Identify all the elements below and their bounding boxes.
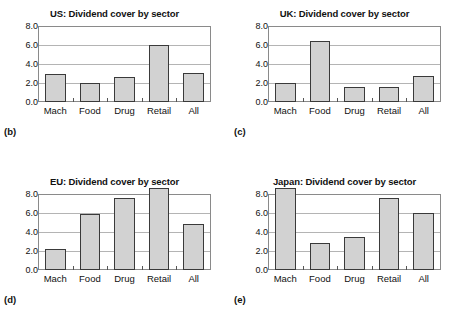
bar-retail <box>149 45 170 102</box>
x-axis-label-drug: Drug <box>337 273 372 284</box>
y-axis-tick-label: 6.0 <box>234 40 268 50</box>
bar-mach <box>275 83 296 102</box>
x-axis-tick <box>372 98 373 102</box>
y-axis-tick-label: 2.0 <box>234 246 268 256</box>
y-axis-tick-label: 0.0 <box>4 97 38 107</box>
x-axis-label-food: Food <box>73 105 108 116</box>
x-axis-label-retail: Retail <box>142 105 177 116</box>
bar-food <box>310 41 331 102</box>
x-axis-tick <box>142 266 143 270</box>
x-axis-label-drug: Drug <box>107 105 142 116</box>
x-axis-label-mach: Mach <box>38 273 73 284</box>
x-axis-tick <box>303 266 304 270</box>
panel-letter: (e) <box>234 294 246 305</box>
x-axis-label-drug: Drug <box>107 273 142 284</box>
x-axis-label-mach: Mach <box>268 273 303 284</box>
x-axis-tick <box>337 98 338 102</box>
y-axis-tick-label: 4.0 <box>234 227 268 237</box>
x-axis-label-retail: Retail <box>372 273 407 284</box>
x-axis-tick <box>372 266 373 270</box>
x-axis-tick <box>73 266 74 270</box>
y-axis: 0.02.04.06.08.0 <box>0 0 38 102</box>
x-axis-tick <box>337 266 338 270</box>
bars-layer <box>268 0 441 102</box>
x-axis-label-food: Food <box>303 273 338 284</box>
bar-food <box>80 83 101 102</box>
y-axis-tick-label: 0.0 <box>234 97 268 107</box>
bar-all <box>413 213 434 270</box>
bar-food <box>80 214 101 270</box>
x-axis-tick <box>406 98 407 102</box>
y-axis: 0.02.04.06.08.0 <box>0 168 38 270</box>
bar-all <box>183 224 204 270</box>
x-axis-label-all: All <box>406 105 441 116</box>
x-axis-label-food: Food <box>303 105 338 116</box>
bar-mach <box>45 74 66 103</box>
bar-all <box>183 73 204 102</box>
y-axis-tick-label: 8.0 <box>234 21 268 31</box>
x-axis-label-retail: Retail <box>142 273 177 284</box>
y-axis-tick-label: 8.0 <box>4 189 38 199</box>
chart-panel-3: EU: Dividend cover by sector0.02.04.06.0… <box>0 168 229 336</box>
chart-panel-1: US: Dividend cover by sector0.02.04.06.0… <box>0 0 229 168</box>
y-axis-tick-label: 4.0 <box>234 59 268 69</box>
bar-drug <box>344 237 365 270</box>
x-axis-tick <box>107 266 108 270</box>
bar-retail <box>149 188 170 270</box>
y-axis-tick-label: 8.0 <box>234 189 268 199</box>
y-axis-tick-label: 6.0 <box>4 208 38 218</box>
bar-drug <box>114 77 135 102</box>
x-axis-tick <box>406 266 407 270</box>
y-axis-tick-label: 4.0 <box>4 227 38 237</box>
y-axis-tick-label: 6.0 <box>4 40 38 50</box>
panel-letter: (c) <box>234 126 246 137</box>
bar-retail <box>379 198 400 270</box>
y-axis-tick-label: 6.0 <box>234 208 268 218</box>
x-axis-label-drug: Drug <box>337 105 372 116</box>
bar-mach <box>45 249 66 270</box>
bar-food <box>310 243 331 270</box>
panel-letter: (b) <box>4 126 16 137</box>
y-axis-tick-label: 2.0 <box>4 246 38 256</box>
bar-drug <box>114 198 135 270</box>
chart-panel-2: UK: Dividend cover by sector0.02.04.06.0… <box>230 0 459 168</box>
x-axis-label-all: All <box>176 273 211 284</box>
y-axis-tick-label: 8.0 <box>4 21 38 31</box>
x-axis-tick <box>107 98 108 102</box>
y-axis-tick-label: 0.0 <box>4 265 38 275</box>
bar-all <box>413 76 434 102</box>
bar-mach <box>275 188 296 270</box>
bar-retail <box>379 87 400 102</box>
y-axis-tick-label: 4.0 <box>4 59 38 69</box>
x-axis-label-mach: Mach <box>268 105 303 116</box>
bars-layer <box>38 168 211 270</box>
y-axis: 0.02.04.06.08.0 <box>230 0 268 102</box>
x-axis-tick <box>303 98 304 102</box>
dividend-cover-figure: US: Dividend cover by sector0.02.04.06.0… <box>0 0 459 336</box>
x-axis-label-food: Food <box>73 273 108 284</box>
bars-layer <box>268 168 441 270</box>
x-axis-label-retail: Retail <box>372 105 407 116</box>
x-axis-label-mach: Mach <box>38 105 73 116</box>
x-axis-tick <box>176 98 177 102</box>
x-axis-label-all: All <box>406 273 441 284</box>
chart-panel-4: Japan: Dividend cover by sector0.02.04.0… <box>230 168 459 336</box>
x-axis-tick <box>73 98 74 102</box>
y-axis-tick-label: 2.0 <box>4 78 38 88</box>
x-axis-tick <box>176 266 177 270</box>
panel-letter: (d) <box>4 294 16 305</box>
y-axis: 0.02.04.06.08.0 <box>230 168 268 270</box>
x-axis-label-all: All <box>176 105 211 116</box>
bar-drug <box>344 87 365 102</box>
y-axis-tick-label: 0.0 <box>234 265 268 275</box>
bars-layer <box>38 0 211 102</box>
y-axis-tick-label: 2.0 <box>234 78 268 88</box>
x-axis-tick <box>142 98 143 102</box>
